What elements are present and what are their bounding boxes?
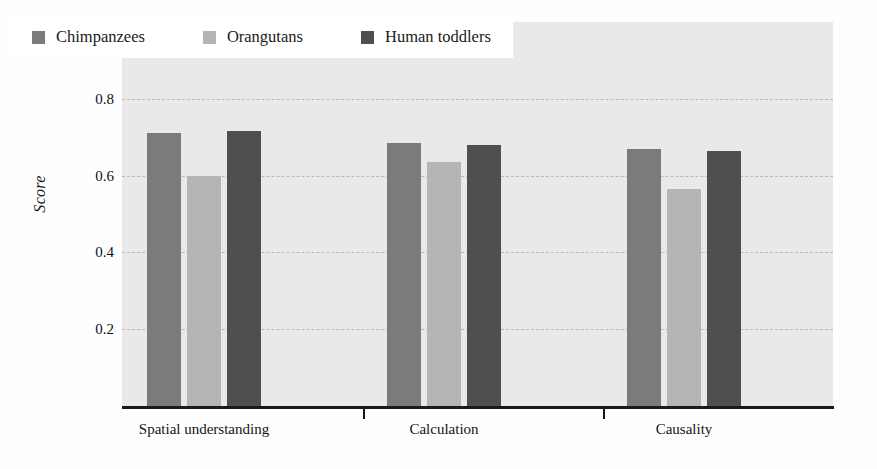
legend-swatch-icon bbox=[361, 31, 374, 44]
bar bbox=[427, 162, 461, 406]
x-axis-category-label: Spatial understanding bbox=[139, 421, 269, 438]
bar bbox=[627, 149, 661, 406]
bar bbox=[227, 131, 261, 406]
chart-figure: Score 10.80.60.40.2 ChimpanzeesOrangutan… bbox=[0, 0, 877, 469]
x-axis-category-label: Causality bbox=[656, 421, 713, 438]
legend-item[interactable]: Orangutans bbox=[203, 27, 303, 47]
legend-item[interactable]: Human toddlers bbox=[361, 27, 491, 47]
bar bbox=[187, 176, 221, 406]
bar bbox=[147, 133, 181, 406]
legend-swatch-icon bbox=[32, 31, 45, 44]
bar bbox=[387, 143, 421, 406]
bar bbox=[707, 151, 741, 406]
y-axis-tick-label: 0.8 bbox=[58, 90, 114, 107]
y-axis-tick-labels: 10.80.60.40.2 bbox=[52, 0, 114, 469]
legend-item-label: Orangutans bbox=[227, 27, 303, 47]
y-axis-tick-label: 0.2 bbox=[58, 321, 114, 338]
x-axis-category-label: Calculation bbox=[409, 421, 478, 438]
legend-item[interactable]: Chimpanzees bbox=[32, 27, 145, 47]
x-axis-tick bbox=[363, 406, 365, 419]
bar bbox=[667, 189, 701, 406]
y-axis-title: Score bbox=[31, 164, 49, 224]
y-axis-tick-label: 0.4 bbox=[58, 244, 114, 261]
y-axis-tick-label: 0.6 bbox=[58, 167, 114, 184]
x-axis-line bbox=[122, 406, 834, 409]
legend-swatch-icon bbox=[203, 31, 216, 44]
x-axis-tick bbox=[603, 406, 605, 419]
chart-legend: ChimpanzeesOrangutansHuman toddlers bbox=[10, 16, 513, 58]
plot-area bbox=[122, 22, 833, 406]
bar bbox=[467, 145, 501, 406]
legend-item-label: Human toddlers bbox=[385, 27, 491, 47]
gridline bbox=[122, 99, 833, 100]
legend-item-label: Chimpanzees bbox=[56, 27, 145, 47]
